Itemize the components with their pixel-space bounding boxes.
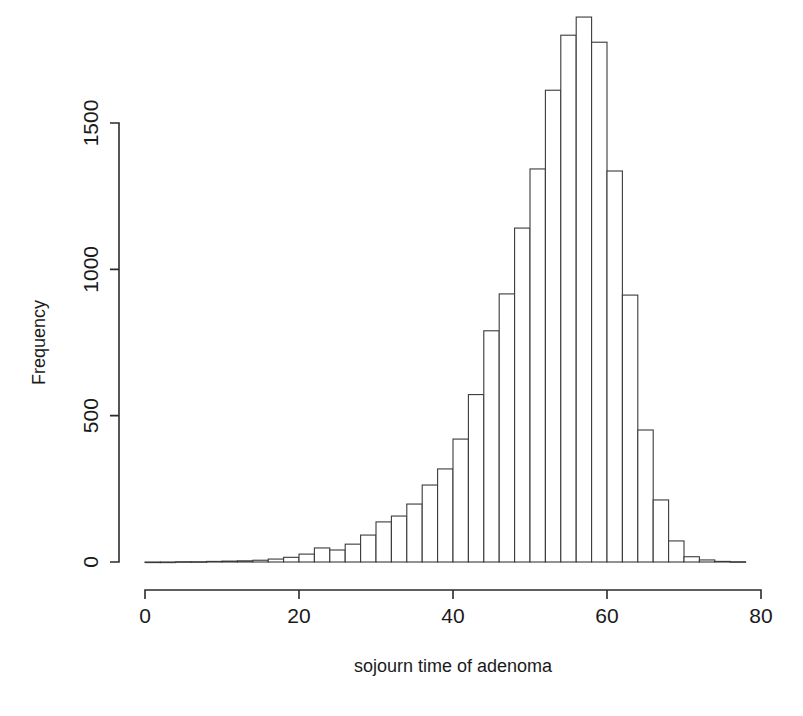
x-axis-tick-label: 80 bbox=[749, 604, 772, 627]
histogram-plot-root: 050010001500 020406080 sojourn time of a… bbox=[0, 0, 803, 716]
x-axis-tick-label: 0 bbox=[139, 604, 151, 627]
histogram-bar bbox=[622, 295, 637, 562]
histogram-bar bbox=[407, 504, 422, 562]
x-axis-title: sojourn time of adenoma bbox=[354, 656, 553, 676]
histogram-bar bbox=[268, 559, 283, 562]
y-axis-title: Frequency bbox=[29, 300, 49, 385]
histogram-bar bbox=[499, 294, 514, 562]
x-axis-tick-label: 60 bbox=[595, 604, 618, 627]
histogram-bar bbox=[299, 554, 314, 562]
histogram-bar bbox=[653, 500, 668, 562]
histogram-bar bbox=[607, 171, 622, 562]
histogram-bar bbox=[468, 395, 483, 562]
histogram-bar bbox=[376, 522, 391, 562]
histogram-bar bbox=[145, 562, 160, 563]
histogram-bar bbox=[638, 430, 653, 562]
histogram-bar bbox=[561, 35, 576, 562]
y-axis-tick-label: 500 bbox=[79, 398, 102, 433]
histogram-bar bbox=[453, 439, 468, 562]
histogram-bar bbox=[191, 562, 206, 563]
histogram-bar bbox=[684, 557, 699, 562]
histogram-bar bbox=[237, 561, 252, 562]
histogram-chart: 050010001500 020406080 sojourn time of a… bbox=[0, 0, 803, 716]
histogram-bar bbox=[253, 560, 268, 562]
histogram-bar bbox=[222, 561, 237, 562]
x-axis-tick-label: 40 bbox=[441, 604, 464, 627]
histogram-bar bbox=[484, 331, 499, 562]
histogram-bar bbox=[576, 17, 591, 562]
histogram-bars bbox=[145, 17, 746, 563]
y-axis-tick-label: 1500 bbox=[79, 100, 102, 147]
histogram-bar bbox=[592, 42, 607, 562]
histogram-bar bbox=[715, 561, 730, 562]
histogram-bar bbox=[438, 469, 453, 562]
histogram-bar bbox=[515, 228, 530, 562]
histogram-bar bbox=[730, 562, 745, 563]
histogram-bar bbox=[330, 550, 345, 562]
histogram-bar bbox=[160, 562, 175, 563]
histogram-bar bbox=[284, 557, 299, 562]
y-axis-tick-label: 0 bbox=[79, 556, 102, 568]
histogram-bar bbox=[176, 562, 191, 563]
x-axis-tick-label: 20 bbox=[287, 604, 310, 627]
y-axis: 050010001500 bbox=[79, 100, 119, 568]
y-axis-tick-label: 1000 bbox=[79, 246, 102, 293]
x-axis: 020406080 bbox=[139, 590, 773, 627]
x-axis-tick-labels: 020406080 bbox=[139, 604, 773, 627]
histogram-bar bbox=[361, 535, 376, 562]
histogram-bar bbox=[345, 544, 360, 562]
x-axis-line bbox=[145, 590, 761, 599]
histogram-bar bbox=[314, 548, 329, 562]
histogram-bar bbox=[207, 561, 222, 562]
histogram-bar bbox=[530, 169, 545, 562]
histogram-bar bbox=[422, 485, 437, 562]
histogram-bar bbox=[391, 516, 406, 562]
histogram-bar bbox=[699, 560, 714, 562]
histogram-bar bbox=[545, 90, 560, 562]
y-axis-tick-labels: 050010001500 bbox=[79, 100, 102, 568]
histogram-bar bbox=[669, 541, 684, 562]
y-axis-line bbox=[110, 123, 119, 562]
